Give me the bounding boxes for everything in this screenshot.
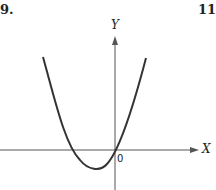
parabola-chart [0, 0, 216, 190]
y-axis-arrow-icon [112, 36, 118, 45]
x-axis-arrow-icon [190, 147, 199, 153]
origin-label: 0 [117, 153, 123, 164]
y-axis-label: Y [111, 18, 119, 32]
parabola-curve [43, 57, 146, 169]
x-axis-label: X [202, 142, 211, 156]
